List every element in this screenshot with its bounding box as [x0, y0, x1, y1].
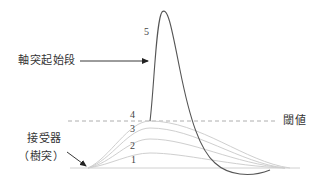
threshold-label: 閾値	[283, 115, 306, 126]
curve-number-1: 1	[131, 155, 136, 165]
curve-number-5: 5	[144, 27, 149, 37]
receptor-arrow	[67, 152, 86, 166]
subthreshold-curve-1	[88, 153, 285, 168]
curve-number-3: 3	[130, 124, 135, 134]
curve-number-2: 2	[130, 141, 135, 151]
axon-initial-segment-label: 軸突起始段	[18, 55, 76, 66]
action-potential-curve-5	[150, 11, 270, 174]
dendrite-label: （樹突）	[18, 151, 64, 162]
receptor-label: 接受器	[27, 133, 62, 144]
subthreshold-curve-3	[88, 128, 285, 168]
subthreshold-curve-2	[88, 139, 285, 168]
curve-number-4: 4	[130, 110, 135, 120]
